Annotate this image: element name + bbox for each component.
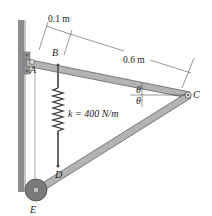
spring-constant-label: k = 400 N/m (68, 108, 118, 119)
dimension-long-label: 0.6 m (123, 55, 145, 65)
angle-theta-lower: θ (136, 95, 141, 106)
spring (53, 64, 63, 168)
angle-theta-upper: θ (136, 84, 141, 95)
label-e: E (29, 204, 36, 215)
mechanism-diagram: 0.1 m 0.6 m B A C D E k = 400 N/m θ θ (0, 0, 212, 216)
label-c: C (193, 89, 200, 100)
roller-e (25, 179, 47, 201)
label-d: D (54, 169, 63, 180)
label-a: A (29, 64, 37, 75)
label-b: B (52, 47, 58, 58)
wall (18, 20, 26, 192)
dimension-short-label: 0.1 m (48, 14, 70, 24)
